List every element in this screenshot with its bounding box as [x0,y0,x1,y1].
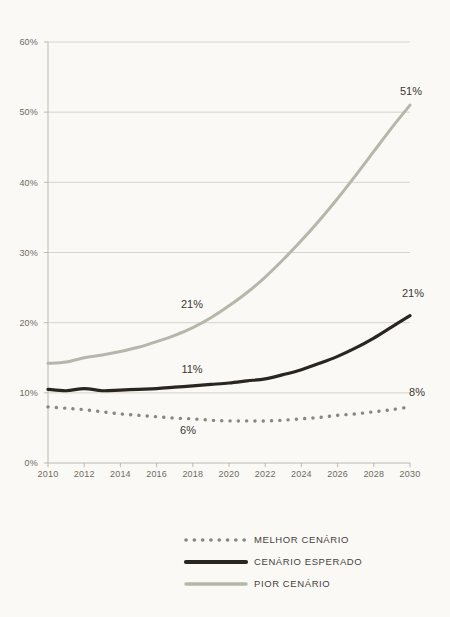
y-tick-label-0%: 0% [25,458,38,468]
x-tick-label-2020: 2020 [219,469,240,479]
data-label-5-8pct: 8% [409,386,425,398]
data-label-4-6pct: 6% [180,424,196,436]
data-label-2-21pct: 21% [402,287,424,299]
x-tick-label-2016: 2016 [146,469,167,479]
x-tick-label-2022: 2022 [255,469,276,479]
y-tick-label-60%: 60% [19,37,38,47]
chart-container: 0%10%20%30%40%50%60% 2010201220142016201… [0,0,450,617]
x-tick-label-2024: 2024 [291,469,312,479]
data-label-1-21pct: 21% [181,298,203,310]
legend-label-pior-cen-rio: PIOR CENÁRIO [254,578,330,589]
y-tick-label-10%: 10% [19,388,38,398]
y-tick-label-40%: 40% [19,178,38,188]
data-label-3-11pct: 11% [181,363,202,375]
y-tick-label-20%: 20% [19,318,38,328]
x-tick-label-2010: 2010 [38,469,59,479]
legend-label-melhor-cen-rio: MELHOR CENÁRIO [254,534,349,545]
y-tick-label-50%: 50% [19,107,38,117]
x-tick-label-2012: 2012 [74,469,95,479]
legend-label-cen-rio-esperado: CENÁRIO ESPERADO [254,556,362,567]
data-label-0-51pct: 51% [400,85,422,97]
x-tick-label-2030: 2030 [400,469,421,479]
x-tick-label-2014: 2014 [110,469,131,479]
x-tick-label-2018: 2018 [182,469,203,479]
x-tick-label-2026: 2026 [327,469,348,479]
y-tick-label-30%: 30% [19,248,38,258]
x-tick-label-2028: 2028 [363,469,384,479]
line-chart: 0%10%20%30%40%50%60% 2010201220142016201… [0,0,450,617]
